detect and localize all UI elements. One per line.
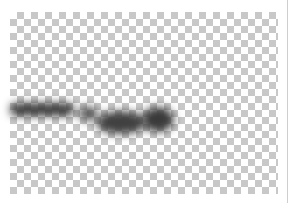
right-border-line (287, 0, 288, 203)
blot-band-small-spot (78, 106, 98, 121)
blot-band-right (142, 107, 174, 132)
blot-band-middle (96, 111, 146, 134)
blot-band-left-streak (10, 103, 74, 116)
